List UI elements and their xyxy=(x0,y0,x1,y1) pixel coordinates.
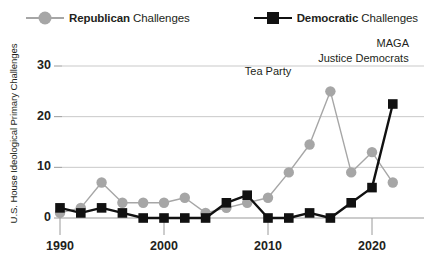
data-point xyxy=(242,190,252,200)
x-axis-tick-label-2000: 2000 xyxy=(134,239,194,253)
data-point xyxy=(76,208,86,218)
data-point xyxy=(263,213,273,223)
data-point xyxy=(138,213,148,223)
data-point xyxy=(138,198,148,208)
data-point xyxy=(180,213,190,223)
series-democratic xyxy=(55,99,397,223)
y-axis-tick-label-10: 10 xyxy=(25,159,51,173)
x-axis-tick-label-1990: 1990 xyxy=(30,239,90,253)
data-point xyxy=(222,198,232,208)
annotation-maga: MAGA xyxy=(365,37,421,50)
data-point xyxy=(159,213,169,223)
data-point xyxy=(96,177,106,187)
y-axis-tick-label-20: 20 xyxy=(25,109,51,123)
data-point xyxy=(201,213,211,223)
x-axis-tick-label-2020: 2020 xyxy=(342,239,402,253)
data-point xyxy=(97,203,107,213)
data-point xyxy=(388,177,398,187)
data-point xyxy=(118,208,128,218)
data-point xyxy=(117,198,127,208)
data-point xyxy=(284,167,294,177)
y-axis-tick-label-0: 0 xyxy=(25,210,51,224)
data-point xyxy=(367,183,377,193)
plot-area: U.S. House Ideological Primary Challenge… xyxy=(0,0,432,279)
data-point xyxy=(326,213,336,223)
x-axis-tick-label-2010: 2010 xyxy=(238,239,298,253)
data-point xyxy=(346,167,356,177)
data-point xyxy=(304,139,314,149)
data-point xyxy=(305,208,315,218)
y-axis-tick-label-30: 30 xyxy=(25,58,51,72)
chart-container: Republican Challenges Democratic Challen… xyxy=(0,0,432,279)
data-point xyxy=(388,99,398,109)
series-line xyxy=(60,91,393,213)
annotation-justice-democrats: Justice Democrats xyxy=(318,52,384,65)
data-point xyxy=(55,203,65,213)
data-point xyxy=(367,147,377,157)
data-point xyxy=(346,198,356,208)
data-point xyxy=(325,86,335,96)
data-point xyxy=(159,198,169,208)
data-point xyxy=(263,193,273,203)
data-point xyxy=(180,193,190,203)
annotation-tea-party: Tea Party xyxy=(233,65,303,78)
data-point xyxy=(284,213,294,223)
